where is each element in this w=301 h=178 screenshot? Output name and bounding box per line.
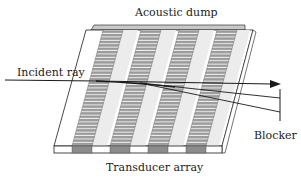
acoustic-dump-label: Acoustic dump [134, 6, 218, 19]
transducer-array [54, 146, 222, 153]
transducer-3 [148, 146, 168, 153]
arrowhead-icon [270, 80, 281, 88]
transducer-4 [186, 146, 206, 153]
acoustic-dump [91, 25, 245, 30]
blocker-label: Blocker [254, 129, 298, 142]
transducer-1 [72, 146, 92, 153]
acousto-optic-deflector-diagram: Acoustic dump Incident ray Blocker Trans… [0, 0, 301, 178]
transducer-array-label: Transducer array [106, 161, 204, 174]
transducer-2 [110, 146, 130, 153]
incident-ray-label: Incident ray [17, 66, 85, 79]
